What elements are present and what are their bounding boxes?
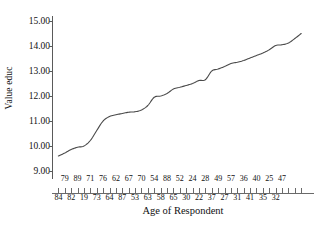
x-tick-label: 37 [208, 193, 216, 202]
x-tick-label: 87 [118, 193, 126, 202]
x-tick-label: 53 [131, 193, 139, 202]
x-tick-label: 63 [144, 193, 152, 202]
x-tick-label: 67 [125, 174, 133, 183]
y-tick-label: 10.00 [16, 141, 50, 151]
x-tick-label: 73 [93, 193, 101, 202]
x-tick-label: 27 [221, 193, 229, 202]
x-tick-label: 22 [195, 193, 203, 202]
x-tick-label: 30 [182, 193, 190, 202]
x-tick-label: 52 [176, 174, 184, 183]
x-tick-label: 71 [86, 174, 94, 183]
x-tick-label: 31 [233, 193, 241, 202]
x-tick-label: 70 [137, 174, 145, 183]
x-tick-label: 88 [163, 174, 171, 183]
x-tick-label: 25 [265, 174, 273, 183]
x-tick-label: 57 [227, 174, 235, 183]
x-tick-label: 76 [99, 174, 107, 183]
data-line-value-educ [58, 34, 301, 157]
x-tick-label: 89 [74, 174, 82, 183]
x-tick-label: 82 [67, 193, 75, 202]
x-tick-label: 35 [259, 193, 267, 202]
x-tick-label: 84 [54, 193, 62, 202]
x-tick-label: 32 [272, 193, 280, 202]
x-tick-label: 41 [246, 193, 254, 202]
y-tick-label-group: 9.0010.0011.0012.0013.0014.0015.00 [16, 0, 50, 180]
x-tick-label: 79 [61, 174, 69, 183]
x-tick-label: 28 [201, 174, 209, 183]
x-tick-label-group: 8482197364875363586530223727314135327989… [52, 174, 314, 200]
plot-area [52, 14, 314, 178]
x-tick-label: 49 [214, 174, 222, 183]
x-tick-label: 24 [189, 174, 197, 183]
x-tick-label: 19 [80, 193, 88, 202]
y-tick-label: 13.00 [16, 66, 50, 76]
y-tick-label: 9.00 [16, 166, 50, 176]
x-tick-label: 65 [169, 193, 177, 202]
x-tick-label: 64 [106, 193, 114, 202]
x-tick-label: 40 [252, 174, 260, 183]
x-tick-label: 47 [278, 174, 286, 183]
x-tick-label: 54 [150, 174, 158, 183]
y-tick-label: 12.00 [16, 91, 50, 101]
y-tick-label: 14.00 [16, 41, 50, 51]
y-tick-label: 15.00 [16, 16, 50, 26]
x-axis-label: Age of Respondent [52, 205, 314, 216]
line-series-svg [52, 14, 314, 178]
x-tick-label: 58 [157, 193, 165, 202]
x-tick-label: 36 [240, 174, 248, 183]
x-tick-label: 62 [112, 174, 120, 183]
y-axis-label-text: Value educ [4, 66, 14, 109]
chart-container: Value educ 9.0010.0011.0012.0013.0014.00… [0, 0, 329, 229]
y-tick-label: 11.00 [16, 116, 50, 126]
